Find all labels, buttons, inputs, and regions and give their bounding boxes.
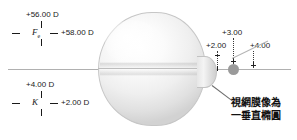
k-top-value: +4.00 D <box>26 80 54 89</box>
eye-equator-line <box>98 68 208 69</box>
k-horizontal-bar-left <box>12 103 20 104</box>
fe-subscript: e <box>38 33 41 39</box>
meridian-label-2: +3.00 <box>222 28 242 37</box>
fe-symbol: Fe <box>32 27 40 39</box>
eyeball-graphic <box>98 12 218 126</box>
meridian-axis-tick-1 <box>217 66 218 71</box>
fe-horizontal-bar-left <box>12 33 20 34</box>
k-vertical-bar-top <box>41 91 42 98</box>
annotation-line-1: 視網膜像為 <box>231 96 281 109</box>
k-horizontal-bar-right <box>50 103 58 104</box>
meridian-tick-1 <box>215 55 220 56</box>
retinal-image-dot <box>228 64 239 75</box>
cornea-bulge <box>197 56 217 88</box>
fe-top-value: +56.00 D <box>26 10 59 19</box>
eye-equator-band <box>100 62 206 76</box>
meridian-cross-tick-3 <box>253 62 254 67</box>
meridian-label-1: +2.00 <box>206 41 226 50</box>
fe-vertical-bar-bottom <box>41 39 42 46</box>
meridian-cross-tick-2 <box>233 58 234 63</box>
annotation-line-2: 一垂直橢圓 <box>231 109 281 122</box>
k-symbol: K <box>32 97 38 107</box>
fe-vertical-bar-top <box>41 21 42 28</box>
annotation-text: 視網膜像為 一垂直橢圓 <box>231 96 281 122</box>
k-vertical-bar-bottom <box>41 109 42 116</box>
k-side-value: +2.00 D <box>61 98 89 107</box>
fe-side-value: +58.00 D <box>61 28 94 37</box>
eye-diagram-figure: +56.00 D Fe +58.00 D +4.00 D K +2.00 D +… <box>0 0 297 140</box>
fe-horizontal-bar-right <box>50 33 58 34</box>
